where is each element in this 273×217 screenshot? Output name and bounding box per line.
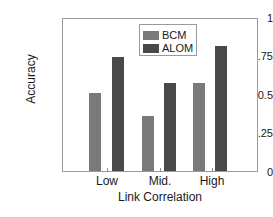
bar-bcm-mid bbox=[142, 116, 154, 171]
legend-item-bcm: BCM bbox=[143, 29, 186, 41]
x-tick-label-low: Low bbox=[83, 174, 131, 188]
bar-alom-mid bbox=[164, 83, 176, 171]
bar-bcm-low bbox=[89, 93, 101, 171]
legend-label-bcm: BCM bbox=[162, 30, 186, 41]
legend: BCM ALOM bbox=[139, 24, 197, 56]
x-axis-label: Link Correlation bbox=[62, 190, 258, 204]
x-tick-mark-high bbox=[212, 168, 213, 172]
x-tick-label-high: High bbox=[188, 174, 236, 188]
bar-alom-high bbox=[215, 46, 227, 171]
legend-swatch-bcm bbox=[143, 31, 159, 40]
y-axis-label: Accuracy bbox=[24, 34, 38, 124]
x-tick-mark-mid bbox=[160, 168, 161, 172]
x-tick-mark-low bbox=[107, 168, 108, 172]
legend-item-alom: ALOM bbox=[143, 42, 193, 54]
legend-swatch-alom bbox=[143, 44, 159, 53]
bar-chart-figure: 1 0.75 0.5 0.25 0 Accuracy BCM ALOM bbox=[0, 0, 273, 217]
x-tick-label-mid: Mid. bbox=[136, 174, 184, 188]
bar-bcm-high bbox=[193, 83, 205, 171]
legend-label-alom: ALOM bbox=[162, 43, 193, 54]
bar-alom-low bbox=[112, 57, 124, 171]
